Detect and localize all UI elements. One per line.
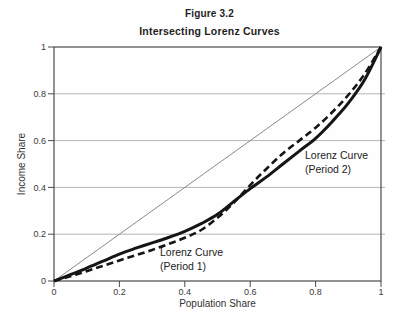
y-axis-title: Income Share bbox=[16, 133, 27, 195]
x-axis-title: Population Share bbox=[54, 298, 381, 309]
x-tick-label: 0.4 bbox=[179, 287, 192, 297]
x-tick-label: 0.6 bbox=[244, 287, 257, 297]
annotation-lorenz-period-2: Lorenz Curve (Period 2) bbox=[305, 149, 368, 177]
x-tick-label: 1 bbox=[378, 287, 383, 297]
y-tick-label: 0.2 bbox=[33, 229, 46, 239]
x-tick-label: 0.8 bbox=[309, 287, 322, 297]
y-tick-label: 0.6 bbox=[33, 136, 46, 146]
y-tick-label: 1 bbox=[41, 42, 46, 52]
y-tick-label: 0.4 bbox=[33, 183, 46, 193]
y-tick-label: 0 bbox=[41, 276, 46, 286]
y-tick-label: 0.8 bbox=[33, 89, 46, 99]
x-tick-label: 0.2 bbox=[113, 287, 126, 297]
annotation-lorenz-period-1: Lorenz Curve (Period 1) bbox=[160, 246, 223, 274]
lorenz-figure: Figure 3.2 Intersecting Lorenz Curves 00… bbox=[0, 0, 399, 332]
x-tick-label: 0 bbox=[51, 287, 56, 297]
